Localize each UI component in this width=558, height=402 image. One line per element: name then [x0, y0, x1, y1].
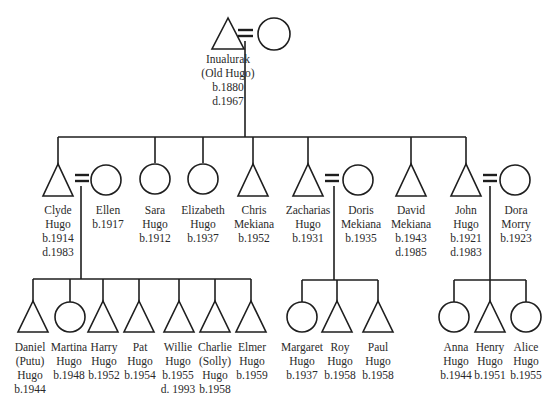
male-triangle-icon — [363, 301, 393, 332]
male-triangle-icon — [293, 164, 323, 196]
person-label-inualurak: Inualurak (Old Hugo) b.1880 d.1967 — [201, 52, 254, 108]
label-line: Anna — [440, 340, 472, 354]
male-triangle-icon — [18, 301, 48, 332]
person-label-paul: Paul Hugo b.1958 — [362, 340, 394, 382]
male-triangle-icon — [451, 164, 481, 196]
label-line: b.1943 — [391, 231, 431, 245]
label-line: Hugo — [161, 354, 196, 368]
female-circle-icon — [511, 302, 541, 332]
label-line: b.1921 — [450, 231, 482, 245]
person-label-henry: Henry Hugo b.1951 — [474, 340, 506, 382]
male-triangle-icon — [43, 164, 73, 196]
label-line: John — [450, 203, 482, 217]
label-line: b.1955 — [161, 368, 196, 382]
label-line: Hugo — [51, 354, 87, 368]
label-line: b.1958 — [198, 382, 232, 396]
label-line: d.1985 — [391, 245, 431, 259]
label-line: Hugo — [440, 354, 472, 368]
label-line: Willie — [161, 340, 196, 354]
label-line: David — [391, 203, 431, 217]
person-label-elmer: Elmer Hugo b.1959 — [236, 340, 268, 382]
label-line: Dora — [500, 203, 532, 217]
label-line: b.1937 — [181, 231, 224, 245]
label-line: Henry — [474, 340, 506, 354]
male-triangle-icon — [164, 301, 194, 332]
male-triangle-icon — [200, 301, 230, 332]
label-line: Hugo — [139, 217, 171, 231]
label-line: Paul — [362, 340, 394, 354]
label-line: d.1967 — [201, 94, 254, 108]
label-line: Charlie — [198, 340, 232, 354]
female-circle-icon — [140, 164, 170, 194]
person-label-alice: Alice Hugo b.1955 — [510, 340, 542, 382]
person-label-harry: Harry Hugo b.1952 — [88, 340, 120, 382]
male-triangle-icon — [88, 301, 118, 332]
label-line: b.1935 — [341, 231, 381, 245]
person-label-clyde: Clyde Hugo b.1914 d.1983 — [42, 203, 74, 259]
person-label-dora: Dora Morry b.1923 — [500, 203, 532, 245]
label-line: Hugo — [324, 354, 356, 368]
female-circle-icon — [439, 302, 469, 332]
female-circle-icon — [287, 302, 317, 332]
male-triangle-icon — [212, 18, 244, 49]
label-line: Daniel — [14, 340, 46, 354]
person-label-charlie: Charlie (Solly) Hugo b.1958 — [198, 340, 232, 396]
person-label-margaret: Margaret Hugo b.1937 — [281, 340, 323, 382]
label-line: b.1948 — [51, 368, 87, 382]
label-line: d.1983 — [42, 245, 74, 259]
label-line: Hugo — [181, 217, 224, 231]
female-circle-icon — [91, 165, 121, 195]
label-line: (Old Hugo) — [201, 66, 254, 80]
label-line: b.1914 — [42, 231, 74, 245]
label-line: Hugo — [236, 354, 268, 368]
label-line: b.1952 — [234, 231, 274, 245]
label-line: b.1931 — [286, 231, 331, 245]
label-line: Martina — [51, 340, 87, 354]
label-line: Doris — [341, 203, 381, 217]
male-triangle-icon — [396, 164, 426, 196]
label-line: Roy — [324, 340, 356, 354]
person-label-daniel: Daniel (Putu) Hugo b.1944 — [14, 340, 46, 396]
label-line: Hugo — [88, 354, 120, 368]
person-label-sara: Sara Hugo b.1912 — [139, 203, 171, 245]
label-line: Ellen — [92, 203, 124, 217]
label-line: b.1955 — [510, 368, 542, 382]
label-line: Elmer — [236, 340, 268, 354]
label-line: Hugo — [510, 354, 542, 368]
person-label-chris: Chris Mekiana b.1952 — [234, 203, 274, 245]
label-line: b.1958 — [324, 368, 356, 382]
female-circle-icon — [258, 18, 290, 50]
label-line: b.1952 — [88, 368, 120, 382]
male-triangle-icon — [322, 301, 352, 332]
label-line: Clyde — [42, 203, 74, 217]
label-line: b.1944 — [440, 368, 472, 382]
label-line: (Putu) — [14, 354, 46, 368]
person-label-john: John Hugo b.1921 d.1983 — [450, 203, 482, 259]
label-line: Elizabeth — [181, 203, 224, 217]
female-circle-icon — [188, 164, 218, 194]
label-line: b.1954 — [124, 368, 156, 382]
label-line: Hugo — [450, 217, 482, 231]
label-line: Pat — [124, 340, 156, 354]
label-line: b.1944 — [14, 382, 46, 396]
person-label-martina: Martina Hugo b.1948 — [51, 340, 87, 382]
label-line: b.1951 — [474, 368, 506, 382]
label-line: b.1912 — [139, 231, 171, 245]
label-line: Sara — [139, 203, 171, 217]
person-label-willie: Willie Hugo b.1955 d. 1993 — [161, 340, 196, 396]
label-line: Hugo — [14, 368, 46, 382]
female-circle-icon — [500, 165, 530, 195]
label-line: Hugo — [42, 217, 74, 231]
label-line: b.1880 — [201, 80, 254, 94]
label-line: Hugo — [362, 354, 394, 368]
label-line: d.1983 — [450, 245, 482, 259]
male-triangle-icon — [236, 301, 266, 332]
label-line: Mekiana — [391, 217, 431, 231]
label-line: Harry — [88, 340, 120, 354]
label-line: Margaret — [281, 340, 323, 354]
label-line: Hugo — [474, 354, 506, 368]
label-line: b.1958 — [362, 368, 394, 382]
label-line: b.1959 — [236, 368, 268, 382]
male-triangle-icon — [124, 301, 154, 332]
person-label-roy: Roy Hugo b.1958 — [324, 340, 356, 382]
